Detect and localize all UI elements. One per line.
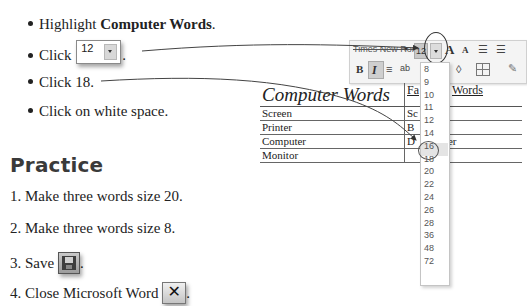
arrow-to-18 <box>101 78 416 140</box>
arrow-to-size-box <box>142 45 418 51</box>
